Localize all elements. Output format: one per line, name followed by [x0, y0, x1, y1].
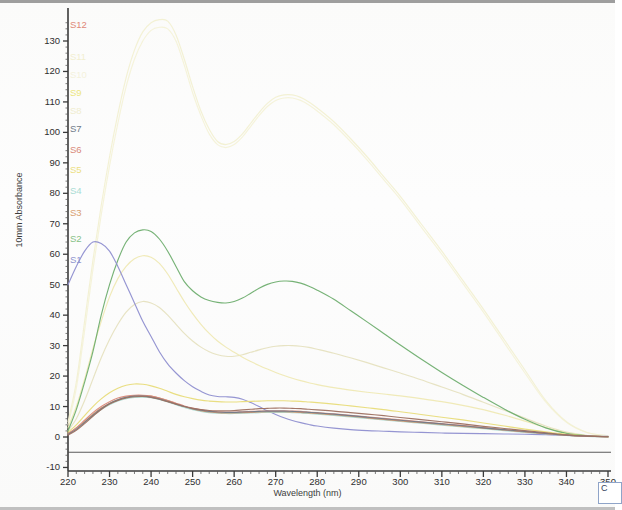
x-tick-label: 240: [141, 477, 161, 487]
legend-item-s1[interactable]: S1: [70, 255, 81, 265]
x-tick-label: 310: [432, 477, 452, 487]
series-curve-S11: [68, 301, 608, 436]
legend-item-s3[interactable]: S3: [70, 208, 81, 218]
x-tick-label: 230: [100, 477, 120, 487]
x-axis-title: Wavelength (nm): [0, 488, 615, 498]
y-tick-label: 20: [22, 371, 60, 381]
y-tick-label: 50: [22, 280, 60, 290]
series-curve-S8: [68, 256, 608, 437]
legend-item-s8[interactable]: S8: [70, 106, 81, 116]
y-tick-label: 70: [22, 219, 60, 229]
axes-group: [63, 8, 611, 477]
y-tick-label: 90: [22, 158, 60, 168]
y-tick-label: 30: [22, 341, 60, 351]
legend-item-s5[interactable]: S5: [70, 165, 81, 175]
legend-item-s7[interactable]: S7: [70, 124, 81, 134]
y-tick-label: 100: [22, 127, 60, 137]
x-tick-label: 290: [349, 477, 369, 487]
legend-item-s10[interactable]: S10: [70, 70, 87, 80]
y-tick-label: 0: [22, 432, 60, 442]
y-tick-label: 60: [22, 249, 60, 259]
y-tick-label: 80: [22, 188, 60, 198]
legend-item-s9[interactable]: S9: [70, 88, 81, 98]
x-tick-label: 330: [515, 477, 535, 487]
legend-item-s11[interactable]: S11: [70, 52, 86, 62]
corner-widget[interactable]: C: [598, 482, 622, 504]
series-curve-S10: [68, 27, 608, 436]
curves-group: [68, 19, 608, 436]
y-axis-title: 10mm Absorbance: [14, 160, 24, 260]
y-tick-label: 10: [22, 402, 60, 412]
legend-item-s12[interactable]: S12: [70, 20, 87, 30]
y-tick-label: 130: [22, 36, 60, 46]
x-tick-label: 220: [58, 477, 78, 487]
legend-item-s2[interactable]: S2: [70, 234, 81, 244]
x-tick-label: 270: [266, 477, 286, 487]
x-tick-label: 260: [224, 477, 244, 487]
y-tick-label: 40: [22, 310, 60, 320]
series-curve-S9: [68, 19, 608, 435]
x-tick-label: 250: [183, 477, 203, 487]
x-tick-label: 280: [307, 477, 327, 487]
x-tick-label: 340: [556, 477, 576, 487]
legend-item-s4[interactable]: S4: [70, 186, 81, 196]
y-tick-label: 110: [22, 97, 60, 107]
series-curve-S1: [68, 242, 608, 437]
x-tick-label: 300: [390, 477, 410, 487]
y-tick-label: -10: [22, 462, 60, 472]
series-curve-S12: [68, 396, 608, 436]
x-tick-label: 320: [473, 477, 493, 487]
y-tick-label: 120: [22, 66, 60, 76]
legend-item-s6[interactable]: S6: [70, 145, 81, 155]
